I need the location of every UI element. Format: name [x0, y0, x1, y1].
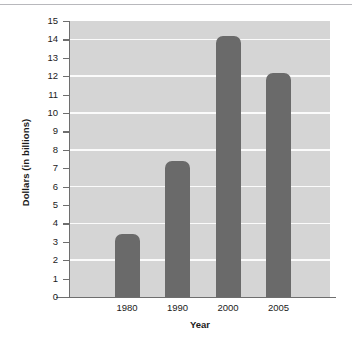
- y-axis-tick-label: 6: [34, 182, 58, 192]
- y-axis-tick-label: 9: [34, 126, 58, 136]
- y-axis-tick-label: 5: [34, 200, 58, 210]
- x-axis-title: Year: [70, 319, 330, 330]
- y-axis-tick: [63, 150, 70, 151]
- y-axis-tick-label: 11: [34, 90, 58, 100]
- bar: [165, 161, 190, 297]
- y-axis-tick-label-wrap: 4: [34, 218, 58, 228]
- y-axis-tick: [63, 205, 70, 206]
- gridline: [70, 186, 330, 188]
- y-axis-tick-label-wrap: 2: [34, 255, 58, 265]
- y-axis-tick-label-wrap: 14: [34, 34, 58, 44]
- y-axis-tick-label: 7: [34, 163, 58, 173]
- top-divider: [0, 4, 352, 5]
- y-axis-tick-label-wrap: 8: [34, 145, 58, 155]
- y-axis-tick: [63, 168, 70, 169]
- y-axis-tick-label: 0: [34, 292, 58, 302]
- y-axis-tick-label: 2: [34, 255, 58, 265]
- y-axis-tick-label: 3: [34, 237, 58, 247]
- y-axis-tick-label-wrap: 5: [34, 200, 58, 210]
- y-axis-tick: [63, 242, 70, 243]
- y-axis-tick: [63, 58, 70, 59]
- y-axis-tick-label: 10: [34, 108, 58, 118]
- y-axis-tick-label: 14: [34, 34, 58, 44]
- y-axis-tick: [63, 21, 70, 22]
- y-axis-tick: [63, 131, 70, 132]
- y-axis-tick-label: 8: [34, 145, 58, 155]
- bar: [216, 36, 241, 297]
- y-axis-tick-label-wrap: 11: [34, 90, 58, 100]
- y-axis-tick: [63, 279, 70, 280]
- bar: [115, 234, 140, 297]
- gridline: [70, 259, 330, 261]
- y-axis-tick-label-wrap: 15: [34, 16, 58, 26]
- y-axis-tick-label-wrap: 6: [34, 182, 58, 192]
- y-axis-line: [69, 21, 70, 298]
- y-axis-tick: [63, 95, 70, 96]
- gridline: [70, 149, 330, 151]
- y-axis-tick-label-wrap: 10: [34, 108, 58, 118]
- y-axis-tick: [63, 76, 70, 77]
- y-axis-tick-label-wrap: 12: [34, 71, 58, 81]
- y-axis-tick-label: 12: [34, 71, 58, 81]
- bar: [266, 73, 291, 297]
- y-axis-tick-label: 13: [34, 53, 58, 63]
- bar-chart-figure: Dollars (in billions) 151413121110987654…: [0, 0, 352, 343]
- y-axis-tick-label-wrap: 3: [34, 237, 58, 247]
- x-axis-line: [56, 297, 336, 298]
- y-axis-tick-label-wrap: 13: [34, 53, 58, 63]
- y-axis-tick: [63, 187, 70, 188]
- y-axis-tick: [63, 297, 70, 298]
- y-axis-tick-label: 4: [34, 218, 58, 228]
- gridline: [70, 223, 330, 225]
- y-axis-tick-label: 15: [34, 16, 58, 26]
- y-axis-tick: [63, 113, 70, 114]
- gridline: [70, 75, 330, 77]
- x-axis-tick-label: 2005: [249, 302, 309, 313]
- y-axis-tick: [63, 223, 70, 224]
- gridline: [70, 112, 330, 114]
- y-axis-tick: [63, 39, 70, 40]
- plot-area: [70, 21, 330, 297]
- y-axis-tick-label-wrap: 9: [34, 126, 58, 136]
- y-axis-tick-label-wrap: 0: [34, 292, 58, 302]
- y-axis-tick-label-wrap: 1: [34, 274, 58, 284]
- gridline: [70, 39, 330, 41]
- y-axis-tick-label-wrap: 7: [34, 163, 58, 173]
- y-axis-title: Dollars (in billions): [20, 53, 31, 273]
- y-axis-tick: [63, 260, 70, 261]
- y-axis-tick-label: 1: [34, 274, 58, 284]
